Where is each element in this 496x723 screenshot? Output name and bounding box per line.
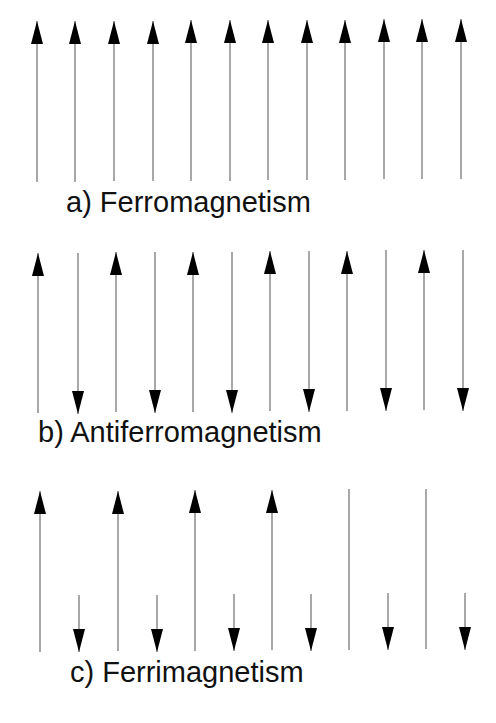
spin-vector-down: [457, 250, 469, 411]
arrowhead-up-icon: [339, 20, 351, 43]
spin-vector-up: [301, 20, 313, 180]
arrowhead-up-icon: [266, 490, 278, 513]
magnetic-ordering-diagram: [0, 0, 496, 723]
arrowhead-up-icon: [69, 21, 81, 44]
spin-vector-up: [264, 251, 276, 411]
arrowhead-up-icon: [147, 21, 159, 44]
spin-vector-down: [382, 593, 394, 650]
arrowhead-down-icon: [72, 391, 84, 414]
spin-vector-down: [72, 253, 84, 414]
panel-ferrimagnetism-arrows: [34, 489, 471, 652]
spin-vector-down: [226, 252, 238, 413]
arrowhead-up-icon: [32, 253, 44, 276]
spin-vector-down: [380, 250, 392, 411]
spin-vector-down: [228, 594, 240, 651]
label-antiferromagnetism: b) Antiferromagnetism: [38, 418, 322, 447]
spin-vector-down: [151, 595, 163, 652]
spin-vector-up: [147, 21, 159, 181]
arrowhead-down-icon: [151, 629, 163, 652]
arrowhead-up-icon: [34, 491, 46, 514]
spin-vector-up: [32, 253, 44, 413]
arrowhead-down-icon: [303, 389, 315, 412]
spin-vector-down: [305, 594, 317, 651]
arrowhead-up-icon: [264, 251, 276, 274]
arrowhead-up-icon: [31, 21, 43, 44]
spin-vector-up: [416, 19, 428, 179]
spin-vector-up: [455, 19, 467, 179]
spin-vector-up: [31, 21, 43, 182]
spin-vector-up: [339, 20, 351, 180]
arrowhead-down-icon: [149, 390, 161, 413]
panel-antiferromagnetism-arrows: [32, 250, 469, 414]
spin-vector-down: [459, 593, 471, 650]
arrowhead-up-icon: [112, 491, 124, 514]
arrowhead-up-icon: [378, 19, 390, 42]
spin-vector-up: [341, 251, 353, 411]
spin-vector-up: [224, 20, 236, 181]
arrowhead-up-icon: [108, 21, 120, 44]
spin-vector-up: [262, 20, 274, 180]
spin-vector-up: [187, 252, 199, 412]
arrowhead-up-icon: [262, 20, 274, 43]
panel-ferromagnetism-arrows: [31, 19, 467, 182]
arrowhead-up-icon: [110, 252, 122, 275]
arrowhead-down-icon: [73, 629, 85, 652]
arrowhead-down-icon: [226, 390, 238, 413]
spin-vector-down: [149, 252, 161, 413]
arrowhead-up-icon: [187, 252, 199, 275]
label-ferrimagnetism: c) Ferrimagnetism: [70, 658, 304, 687]
arrowhead-up-icon: [416, 19, 428, 42]
arrowhead-up-icon: [189, 490, 201, 513]
spin-vector-up: [418, 250, 430, 410]
spin-vector-up: [34, 491, 46, 652]
spin-vector-up: [69, 21, 81, 182]
spin-vector-up: [189, 490, 201, 651]
arrowhead-down-icon: [457, 388, 469, 411]
arrowhead-down-icon: [228, 628, 240, 651]
arrowhead-up-icon: [301, 20, 313, 43]
arrowhead-down-icon: [380, 388, 392, 411]
spin-vector-up: [266, 490, 278, 650]
arrowhead-down-icon: [382, 627, 394, 650]
spin-vector-up: [108, 21, 120, 181]
spin-vector-up: [185, 20, 197, 181]
arrowhead-up-icon: [455, 19, 467, 42]
arrowhead-up-icon: [341, 251, 353, 274]
spin-vector-up: [112, 491, 124, 651]
label-ferromagnetism: a) Ferromagnetism: [66, 188, 311, 217]
arrowhead-up-icon: [224, 20, 236, 43]
spin-vector-down: [73, 595, 85, 652]
arrowhead-up-icon: [185, 20, 197, 43]
spin-vector-up: [378, 19, 390, 179]
arrowhead-down-icon: [459, 627, 471, 650]
arrowhead-down-icon: [305, 628, 317, 651]
spin-vector-up: [110, 252, 122, 412]
spin-vector-down: [303, 251, 315, 412]
arrowhead-up-icon: [418, 250, 430, 273]
